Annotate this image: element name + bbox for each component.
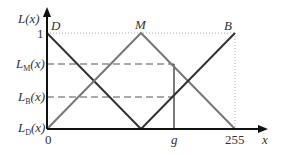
label-d: D xyxy=(50,18,61,33)
x-axis-label: x xyxy=(261,132,268,147)
x-tick-255: 255 xyxy=(225,132,245,147)
y-tick-one: 1 xyxy=(37,26,44,41)
y-axis-label: L(x) xyxy=(17,11,40,26)
curve-m xyxy=(47,33,235,129)
membership-function-diagram: L(x) 1 D M B LM(x) LB(x) LD(x) 0 g 255 x xyxy=(0,0,282,155)
y-tick-ld: LD(x) xyxy=(17,120,45,137)
label-m: M xyxy=(134,17,147,32)
x-tick-zero: 0 xyxy=(45,132,52,147)
y-tick-lb: LB(x) xyxy=(17,89,45,106)
x-tick-g: g xyxy=(171,132,178,147)
label-b: B xyxy=(224,18,232,33)
y-axis-arrow-icon xyxy=(43,7,51,17)
y-tick-lm: LM(x) xyxy=(15,56,45,73)
